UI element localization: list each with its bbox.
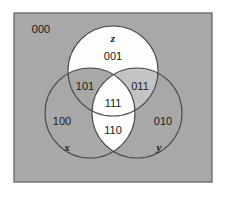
set-label-z: z bbox=[110, 32, 116, 44]
region-label-011: 011 bbox=[131, 80, 149, 92]
region-label-001: 001 bbox=[104, 50, 122, 62]
venn-diagram-figure: 000001101011111100010110 zxy bbox=[0, 0, 227, 198]
region-label-000: 000 bbox=[32, 23, 50, 35]
region-label-110: 110 bbox=[104, 124, 122, 136]
set-label-x: x bbox=[63, 141, 70, 153]
region-label-100: 100 bbox=[53, 115, 71, 127]
region-label-101: 101 bbox=[76, 80, 94, 92]
region-label-111: 111 bbox=[105, 97, 122, 109]
region-label-010: 010 bbox=[154, 115, 172, 127]
venn-diagram-svg: 000001101011111100010110 zxy bbox=[0, 0, 227, 198]
set-label-y: y bbox=[155, 141, 162, 153]
